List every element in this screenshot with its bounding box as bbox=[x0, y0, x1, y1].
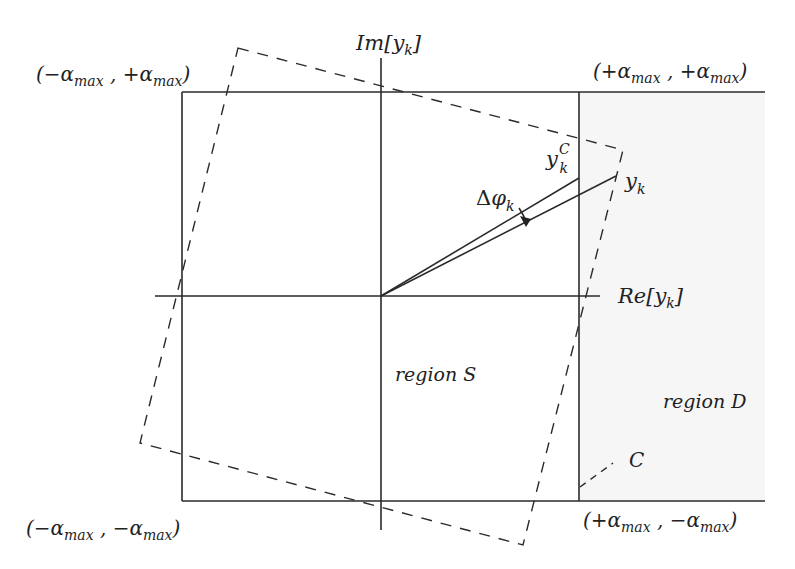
phase-arrowhead-icon bbox=[520, 216, 531, 227]
region-d-label: region D bbox=[663, 390, 747, 412]
corner-label-bottom-right: (+αmax , −αmax) bbox=[583, 508, 737, 535]
region-s-label: region S bbox=[395, 363, 476, 385]
corner-label-bottom-left: (−αmax , −αmax) bbox=[26, 516, 180, 543]
imaginary-axis-label: Im[yk] bbox=[355, 31, 422, 58]
phase-shift-label: Δφk bbox=[476, 186, 514, 214]
corner-label-top-right: (+αmax , +αmax) bbox=[593, 59, 747, 86]
clipped-vector-label: yCk bbox=[545, 141, 570, 176]
corner-label-top-left: (−αmax , +αmax) bbox=[36, 62, 190, 89]
clipping-diagram: Im[yk] Re[yk] (−αmax , +αmax) (+αmax , +… bbox=[0, 0, 795, 569]
boundary-c-label: C bbox=[629, 448, 644, 472]
